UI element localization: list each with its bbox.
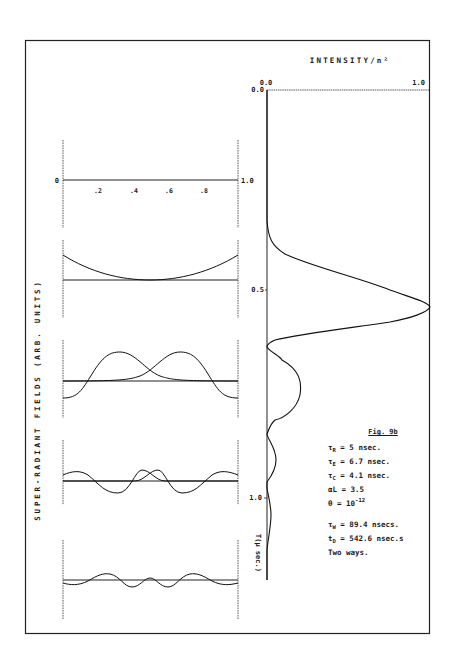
pos-tick-04: .4 xyxy=(130,187,138,195)
legend-row-tau-w: τW = 89.4 nsecs. xyxy=(328,519,428,533)
legend-row-t-d: tD = 542.6 nsec.s xyxy=(328,533,428,547)
legend-row-tau-r: τR = 5 nsec. xyxy=(328,442,428,456)
field-panel-3 xyxy=(63,470,238,493)
y-tick-0: 0.0 xyxy=(251,86,264,94)
field-panels: SUPER-RADIANT FIELDS (ARB. UNITS) 0 .2 .… xyxy=(33,140,254,620)
pos-tick-06: .6 xyxy=(165,187,173,195)
field-panel-2 xyxy=(63,352,238,398)
legend-row-alpha-l: αL = 3.5 xyxy=(328,484,428,495)
fields-axis-title: SUPER-RADIANT FIELDS (ARB. UNITS) xyxy=(33,279,42,520)
legend-row-note: Two ways. xyxy=(328,547,428,558)
field-panel-1 xyxy=(63,255,238,280)
y-tick-05: 0.5 xyxy=(251,286,264,294)
intensity-axis-title: INTENSITY/n² xyxy=(310,56,391,65)
figure-caption: Fig. 9b xyxy=(338,427,428,438)
pos-tick-08: .8 xyxy=(200,187,208,195)
time-axis-label: T(μ sec.) xyxy=(254,534,262,572)
legend-row-tau-e: τE = 6.7 nsec. xyxy=(328,456,428,470)
legend-row-tau-c: τC = 4.1 nsec. xyxy=(328,470,428,484)
pos-tick-1: 1.0 xyxy=(241,177,254,185)
legend-row-theta: θ = 10-12 xyxy=(328,495,428,509)
field-panel-4 xyxy=(63,574,238,587)
pos-tick-02: .2 xyxy=(94,187,102,195)
y-tick-1: 1.0 xyxy=(249,494,262,502)
figure-canvas: INTENSITY/n² 0.0 1.0 0.0 0.5 1.0 T(μ sec… xyxy=(0,0,452,666)
pos-tick-0: 0 xyxy=(55,177,59,185)
x-tick-1: 1.0 xyxy=(412,79,425,87)
parameter-legend: Fig. 9b τR = 5 nsec. τE = 6.7 nsec. τC =… xyxy=(328,427,428,558)
